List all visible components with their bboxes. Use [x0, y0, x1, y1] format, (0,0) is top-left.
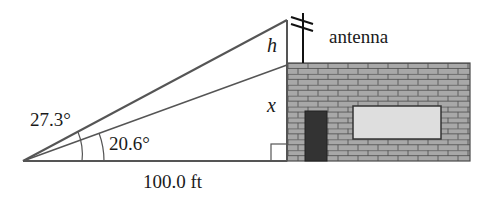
right-angle-marker: [271, 144, 287, 161]
antenna-label: antenna: [329, 26, 389, 47]
outer-angle-label: 27.3°: [30, 109, 71, 130]
elevation-angle-diagram: 27.3° 20.6° 100.0 ft h x antenna: [0, 0, 488, 199]
base-distance-label: 100.0 ft: [143, 171, 203, 192]
building: [287, 63, 470, 161]
antenna-icon: [291, 13, 313, 63]
building-height-label: x: [266, 94, 276, 116]
antenna-height-label: h: [267, 34, 277, 56]
window: [353, 106, 441, 139]
door: [305, 111, 327, 161]
sight-lines: [23, 20, 287, 161]
arc-outer-angle: [78, 132, 82, 161]
inner-angle-label: 20.6°: [109, 133, 150, 154]
arc-inner-angle: [99, 133, 104, 161]
line-to-antenna-top: [23, 20, 287, 161]
